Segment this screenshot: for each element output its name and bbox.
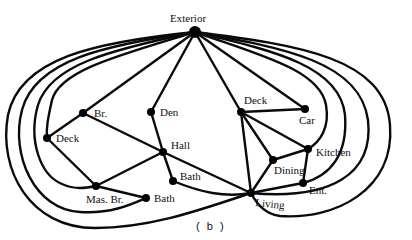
node-label-dining: Dining [274, 164, 305, 176]
node-label-deck_right: Deck [244, 94, 268, 106]
node-label-kitchen: Kitchen [316, 146, 351, 158]
node-label-hall: Hall [171, 139, 190, 151]
edge-ent-living [251, 183, 303, 193]
node-den [147, 108, 155, 116]
edge-hall-living [163, 152, 251, 193]
node-label-bath_low: Bath [154, 192, 175, 204]
edge-exterior-living_outer_left [6, 32, 251, 228]
edge-dining-living [251, 160, 273, 193]
node-exterior [189, 26, 201, 38]
figure-caption: ( b ) [196, 220, 226, 232]
edge-exterior-deck_right [195, 32, 241, 112]
node-label-deck_left: Deck [56, 132, 80, 144]
node-deck_left [43, 134, 51, 142]
node-mas_br [92, 182, 100, 190]
edge-dining-kitchen [273, 149, 308, 160]
house-adjacency-graph: ExteriorBr.DenDeckHallBathMas. Br.BathDe… [0, 0, 412, 240]
node-deck_right [237, 108, 245, 116]
edge-deck_right-car [241, 109, 305, 112]
node-label-bath_hall: Bath [180, 170, 201, 182]
node-car [301, 105, 309, 113]
node-hall [159, 148, 167, 156]
node-ent [299, 179, 307, 187]
node-label-den: Den [160, 106, 179, 118]
graph-edges [6, 32, 390, 228]
node-label-living: Living [255, 196, 286, 211]
node-br [79, 109, 87, 117]
edge-deck_right-kitchen [241, 112, 308, 149]
node-label-ent: Ent. [309, 184, 327, 196]
node-label-car: Car [299, 114, 315, 126]
node-living [247, 189, 255, 197]
node-bath_low [142, 194, 150, 202]
node-dining [269, 156, 277, 164]
edge-mas_br-hall [96, 152, 163, 186]
node-label-br: Br. [94, 107, 107, 119]
node-bath_hall [169, 177, 177, 185]
node-label-mas_br: Mas. Br. [86, 193, 124, 205]
node-kitchen [304, 145, 312, 153]
node-label-exterior: Exterior [170, 12, 206, 24]
